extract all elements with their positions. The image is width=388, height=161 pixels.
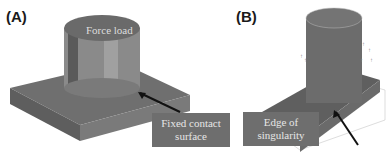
svg-text:↑: ↑ — [362, 41, 365, 47]
svg-text:↑: ↑ — [360, 57, 363, 63]
fixed-contact-surface-callout: Fixed contact surface — [152, 113, 230, 147]
svg-text:↑: ↑ — [368, 47, 371, 53]
callout-line-2: singularity — [249, 129, 313, 142]
svg-text:↑: ↑ — [300, 53, 303, 59]
callout-line-1: Fixed contact — [158, 117, 224, 130]
svg-text:↑: ↑ — [370, 57, 373, 63]
panel-label-b: (B) — [236, 8, 257, 25]
edge-of-singularity-callout: Edge of singularity — [243, 112, 319, 146]
panel-label-a: (A) — [6, 8, 27, 25]
callout-line-1: Edge of — [249, 116, 313, 129]
force-load-label: Force load — [86, 24, 133, 36]
svg-text:↑: ↑ — [304, 57, 307, 63]
callout-line-2: surface — [158, 130, 224, 143]
